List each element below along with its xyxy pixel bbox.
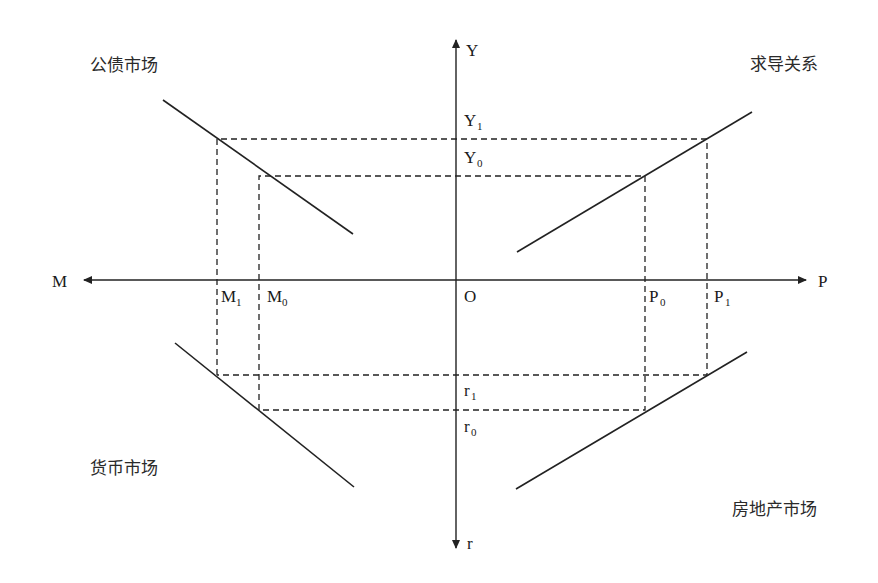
money-market-line — [175, 343, 354, 487]
svg-text:1: 1 — [236, 296, 242, 308]
svg-text:r: r — [464, 381, 470, 400]
derivative-relation-line — [517, 112, 752, 252]
svg-text:0: 0 — [282, 296, 288, 308]
svg-text:P: P — [649, 287, 658, 306]
tick-m1: M 1 — [221, 287, 242, 308]
tick-m0: M 0 — [267, 287, 288, 308]
svg-text:0: 0 — [471, 426, 477, 438]
svg-text:1: 1 — [725, 296, 731, 308]
svg-text:1: 1 — [477, 120, 483, 132]
tick-p1: P 1 — [714, 287, 731, 308]
svg-text:Y: Y — [464, 111, 476, 130]
bond-market-line — [163, 100, 353, 234]
origin-label: O — [464, 287, 476, 306]
label-real-estate-market: 房地产市场 — [732, 499, 817, 519]
real-estate-market-line — [516, 352, 747, 489]
diagram-canvas: 公债市场 求导关系 货币市场 房地产市场 Y r M P O Y 1 Y 0 r… — [0, 0, 878, 583]
svg-text:r: r — [464, 417, 470, 436]
svg-text:1: 1 — [471, 390, 477, 402]
svg-text:P: P — [714, 287, 723, 306]
label-money-market: 货币市场 — [90, 458, 158, 478]
svg-text:M: M — [267, 287, 282, 306]
tick-r1: r 1 — [464, 381, 477, 402]
axis-label-p: P — [818, 272, 827, 291]
axis-label-m: M — [52, 272, 67, 291]
svg-text:0: 0 — [660, 296, 666, 308]
label-bond-market: 公债市场 — [90, 55, 158, 75]
svg-text:M: M — [221, 287, 236, 306]
svg-text:0: 0 — [477, 157, 483, 169]
outer-dashed-rect — [217, 139, 707, 375]
label-derivative-relation: 求导关系 — [750, 54, 818, 74]
four-quadrant-diagram: 公债市场 求导关系 货币市场 房地产市场 Y r M P O Y 1 Y 0 r… — [0, 0, 878, 583]
tick-y1: Y 1 — [464, 111, 483, 132]
tick-y0: Y 0 — [464, 148, 483, 169]
axis-label-r: r — [467, 534, 473, 553]
axis-label-y: Y — [466, 41, 478, 60]
svg-text:Y: Y — [464, 148, 476, 167]
tick-p0: P 0 — [649, 287, 666, 308]
tick-r0: r 0 — [464, 417, 477, 438]
